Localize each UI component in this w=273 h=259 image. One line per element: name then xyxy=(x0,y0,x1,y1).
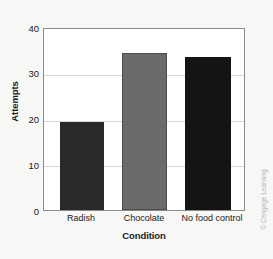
x-axis-tick-labels: Radish Chocolate No food control xyxy=(43,213,245,229)
y-tick-label-0: 0 xyxy=(13,207,39,217)
y-tick-label-10: 10 xyxy=(13,161,39,171)
y-tick-label-40: 40 xyxy=(13,24,39,34)
x-tick-label-radish: Radish xyxy=(47,213,115,224)
y-axis-tick-labels: 40 30 20 10 0 xyxy=(10,0,39,259)
x-axis-title: Condition xyxy=(43,230,245,241)
bar-chart-figure: Attempts 40 30 20 10 0 Radish Chocolate … xyxy=(0,0,273,259)
bar-no-food-control xyxy=(185,57,231,210)
bar-series xyxy=(44,29,244,210)
bar-radish xyxy=(60,122,104,210)
plot-area xyxy=(43,28,245,211)
y-tick-label-20: 20 xyxy=(13,115,39,125)
x-tick-label-chocolate: Chocolate xyxy=(109,213,179,224)
x-tick-label-no-food-control: No food control xyxy=(173,213,251,224)
bar-chocolate xyxy=(122,53,167,210)
y-tick-label-30: 30 xyxy=(13,69,39,79)
copyright-credit: © Cengage Learning xyxy=(260,155,267,245)
